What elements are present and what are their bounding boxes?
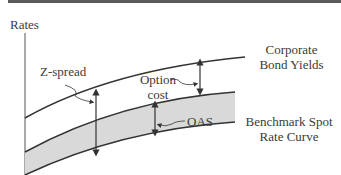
label-option-cost: Option cost <box>136 72 180 102</box>
label-option-cost-line1: Option <box>136 72 180 87</box>
label-option-cost-line2: cost <box>136 87 180 102</box>
label-benchmark-spot-rate-curve: Benchmark Spot Rate Curve <box>237 114 341 144</box>
label-corporate-line1: Corporate <box>244 42 339 57</box>
label-corporate-line2: Bond Yields <box>244 57 339 72</box>
label-benchmark-line2: Rate Curve <box>237 129 341 144</box>
label-z-spread: Z-spread <box>40 64 86 79</box>
benchmark-band <box>25 92 235 175</box>
label-oas: OAS <box>187 114 213 129</box>
label-benchmark-line1: Benchmark Spot <box>237 114 341 129</box>
axis-label-rates: Rates <box>10 17 39 32</box>
label-corporate-bond-yields: Corporate Bond Yields <box>244 42 339 72</box>
